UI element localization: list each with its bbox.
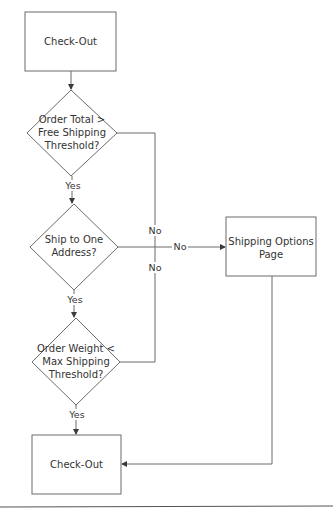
edge-label-total-no: No <box>149 225 162 236</box>
decision-address-line-2: Address? <box>51 247 96 258</box>
decision-total-line-1: Order Total > <box>39 114 106 125</box>
node-start-label: Check-Out <box>44 36 97 47</box>
edge-label-address-no: No <box>174 241 187 252</box>
node-decision-order-total: Order Total > Free Shipping Threshold? <box>27 90 117 176</box>
edge-options-to-end <box>122 276 272 464</box>
decision-total-line-2: Free Shipping <box>38 127 106 138</box>
node-decision-order-weight: Order Weight < Max Shipping Threshold? <box>32 318 120 405</box>
decision-weight-line-2: Max Shipping <box>42 356 109 367</box>
page-bottom-rule <box>0 506 333 507</box>
shipping-options-line-1: Shipping Options <box>228 236 313 247</box>
edge-label-weight-yes: Yes <box>68 409 84 420</box>
node-end-label: Check-Out <box>50 459 103 470</box>
decision-weight-line-3: Threshold? <box>48 369 104 380</box>
decision-weight-line-1: Order Weight < <box>37 343 115 354</box>
flowchart-diagram: Check-Out Order Total > Free Shipping Th… <box>0 0 333 513</box>
decision-total-line-3: Threshold? <box>44 140 100 151</box>
shipping-options-line-2: Page <box>259 249 283 260</box>
decision-address-line-1: Ship to One <box>45 234 104 245</box>
node-decision-ship-address: Ship to One Address? <box>30 204 118 290</box>
node-shipping-options-page: Shipping Options Page <box>226 217 316 276</box>
edge-label-address-yes: Yes <box>66 294 82 305</box>
node-end-checkout: Check-Out <box>32 435 121 494</box>
edge-label-total-yes: Yes <box>64 180 80 191</box>
edge-label-weight-no: No <box>149 262 162 273</box>
node-start-checkout: Check-Out <box>25 12 116 71</box>
